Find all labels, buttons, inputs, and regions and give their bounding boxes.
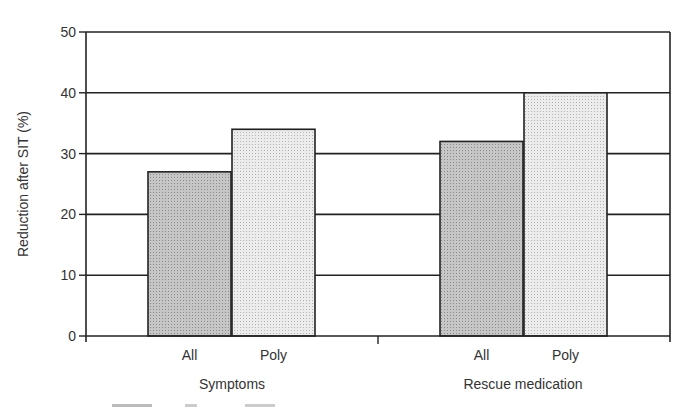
y-tick-label: 40 bbox=[60, 85, 76, 101]
y-axis-label: Reduction after SIT (%) bbox=[15, 111, 31, 257]
x-labels: AllPolySymptomsAllPolyRescue medication bbox=[182, 347, 583, 392]
bar-chart: 01020304050 AllPolySymptomsAllPolyRescue… bbox=[0, 0, 687, 407]
y-tick-label: 30 bbox=[60, 146, 76, 162]
bar-all bbox=[148, 172, 231, 336]
bar-label: Poly bbox=[260, 347, 287, 363]
bar-label: Poly bbox=[552, 347, 579, 363]
bar-label: All bbox=[182, 347, 198, 363]
y-tick-label: 50 bbox=[60, 24, 76, 40]
y-tick-label: 0 bbox=[68, 328, 76, 344]
bar-label: All bbox=[474, 347, 490, 363]
bar-poly bbox=[524, 93, 607, 336]
y-tick-label: 20 bbox=[60, 206, 76, 222]
bar-all bbox=[440, 141, 523, 336]
group-label: Rescue medication bbox=[463, 376, 582, 392]
bar-poly bbox=[232, 129, 315, 336]
y-tick-label: 10 bbox=[60, 267, 76, 283]
group-label: Symptoms bbox=[199, 376, 265, 392]
y-tick-labels: 01020304050 bbox=[60, 24, 76, 344]
